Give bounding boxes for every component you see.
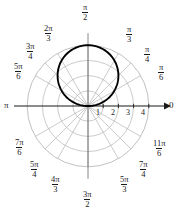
radial-tick-label-1: 1	[96, 108, 100, 117]
angle-label-numerator: 3π	[25, 42, 36, 51]
angle-label-denominator: 4	[31, 169, 37, 179]
radial-tick-label-4: 4	[141, 108, 145, 117]
angle-label-numerator: 3π	[82, 190, 93, 199]
angle-label-denominator: 4	[27, 51, 33, 61]
angle-label-7pi-over-6: 7π 6	[14, 138, 25, 156]
angle-label-numerator: π	[158, 63, 164, 72]
angle-label-denominator: 4	[140, 169, 146, 179]
angle-label-numerator: π	[82, 3, 88, 12]
angle-label-5pi-over-3: 5π 3	[119, 175, 130, 193]
angle-label-pi-over-6: π 6	[158, 63, 164, 81]
angle-label-numerator: π	[144, 45, 150, 54]
angle-label-denominator: 3	[52, 184, 58, 194]
polar-plot-canvas	[0, 0, 179, 211]
angle-label-numerator: 5π	[119, 175, 130, 184]
angle-label-denominator: 6	[156, 148, 162, 158]
angle-label-11pi-over-6: 11π 6	[152, 139, 166, 157]
angle-label-4pi-over-3: 4π 3	[50, 175, 61, 193]
angle-label-3pi-over-4: 3π 4	[25, 42, 36, 60]
angle-label-numerator: 7π	[14, 138, 25, 147]
angle-label-pi-over-4: π 4	[144, 45, 150, 63]
angle-label-denominator: 3	[126, 34, 132, 44]
angle-label-pi: π	[4, 100, 9, 110]
angle-label-denominator: 6	[158, 72, 164, 82]
angle-label-numerator: 5π	[13, 62, 24, 71]
angle-label-numerator: 5π	[29, 160, 40, 169]
angle-label-numerator: 4π	[50, 175, 61, 184]
angle-label-5pi-over-4: 5π 4	[29, 160, 40, 178]
angle-label-denominator: 6	[16, 147, 22, 157]
angle-label-denominator: 2	[84, 199, 90, 209]
angle-label-denominator: 6	[15, 71, 21, 81]
angle-label-zero: 0	[169, 100, 174, 110]
radial-tick-label-2: 2	[111, 108, 115, 117]
angle-label-denominator: 3	[45, 33, 51, 43]
angle-label-2pi-over-3: 2π 3	[43, 24, 54, 42]
angle-label-pi-over-2: π 2	[82, 3, 88, 21]
polar-plot-figure: π 2 2π 3 π 3 3π 4 π 4 5π 6	[0, 0, 179, 211]
angle-label-denominator: 3	[121, 184, 127, 194]
angle-label-numerator: 7π	[138, 160, 149, 169]
angle-label-numerator: 11π	[152, 139, 166, 148]
angle-label-numerator: π	[126, 25, 132, 34]
angle-label-5pi-over-6: 5π 6	[13, 62, 24, 80]
angle-label-pi-over-3: π 3	[126, 25, 132, 43]
angle-label-denominator: 2	[82, 12, 88, 22]
radial-tick-label-3: 3	[126, 108, 130, 117]
angle-label-denominator: 4	[144, 54, 150, 64]
angle-label-3pi-over-2: 3π 2	[82, 190, 93, 208]
angle-label-numerator: 2π	[43, 24, 54, 33]
angle-label-7pi-over-4: 7π 4	[138, 160, 149, 178]
